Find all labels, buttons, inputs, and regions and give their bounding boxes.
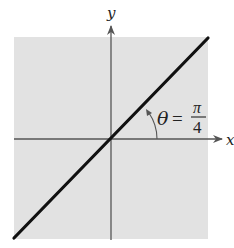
fraction-numerator: π bbox=[193, 99, 202, 116]
fraction-denominator: 4 bbox=[193, 118, 202, 137]
equals-sign: = bbox=[172, 108, 183, 129]
coordinate-diagram: y x θ = π 4 bbox=[0, 0, 234, 248]
theta-symbol: θ bbox=[157, 107, 169, 129]
x-axis-label: x bbox=[226, 131, 234, 149]
y-axis-label: y bbox=[106, 4, 116, 22]
